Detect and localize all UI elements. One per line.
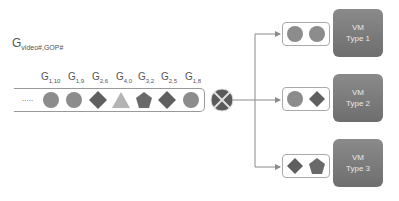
queue-shapes — [43, 91, 199, 109]
vm-type-label: Type 1 — [346, 33, 370, 44]
vm-type-3-box: VM Type 3 — [333, 139, 383, 187]
gop-circle-icon — [43, 92, 59, 108]
vm2-queue — [282, 87, 330, 111]
vm-label: VM — [352, 87, 364, 98]
vm-type-label: Type 3 — [346, 163, 370, 174]
vm-label: VM — [352, 152, 364, 163]
vm-type-1-box: VM Type 1 — [333, 9, 383, 57]
gop-diamond-icon — [158, 91, 176, 109]
vm-type-label: Type 2 — [346, 98, 370, 109]
gop-circle-icon — [183, 92, 199, 108]
vm1-queue — [282, 22, 330, 46]
gop-pentagon-icon — [136, 92, 152, 108]
vm3-queue — [282, 154, 330, 178]
connector-lines — [233, 34, 280, 167]
gop-diamond-icon — [89, 91, 107, 109]
vm-label: VM — [352, 22, 364, 33]
vm-type-2-box: VM Type 2 — [333, 74, 383, 122]
gop-circle-icon — [66, 92, 82, 108]
gop-triangle-icon — [112, 92, 130, 108]
dispatcher-x-circle-icon — [211, 89, 233, 111]
